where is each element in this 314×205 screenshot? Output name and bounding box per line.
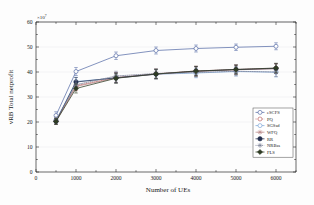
y-tick-label: 40 [27, 69, 33, 75]
chart-canvas: 01000200030004000500060000102030405060 e… [0, 0, 314, 205]
legend-marker [258, 143, 263, 148]
x-tick-label: 0 [35, 175, 38, 181]
series-line [56, 72, 276, 121]
legend-label: NRBss [267, 143, 280, 148]
legend-marker [258, 130, 263, 135]
x-axis-title: Number of UEs [146, 186, 191, 194]
series-line [56, 71, 276, 120]
legend-item-escfs[interactable]: eSCFS [256, 110, 281, 115]
x-tick-label: 5000 [230, 175, 241, 181]
data-point [274, 44, 278, 48]
y-tick-label: 20 [27, 119, 33, 125]
y-axis-exponent-power: 7 [45, 14, 47, 18]
legend-label: WFQ [267, 130, 278, 135]
data-point [114, 54, 118, 58]
series-pq [54, 64, 278, 125]
series-nrbss [54, 67, 279, 123]
data-series-layer [53, 43, 278, 125]
x-tick-label: 4000 [190, 175, 201, 181]
legend-marker [258, 137, 262, 141]
y-tick-label: 60 [27, 19, 33, 25]
legend-label: PQ [267, 117, 274, 122]
series-sgssd [54, 67, 278, 124]
data-point [154, 49, 158, 53]
y-axis-exponent: ×107 [37, 14, 47, 20]
tick-labels-layer: 01000200030004000500060000102030405060 [27, 19, 282, 181]
legend-item-sgssd[interactable]: SGSsd [256, 123, 281, 128]
y-tick-label: 0 [30, 169, 33, 175]
series-line [56, 69, 276, 122]
figure-container: 01000200030004000500060000102030405060 e… [0, 0, 314, 205]
chart-legend[interactable]: eSCFSPQSGSsdWFQRRNRBssFLS [253, 108, 293, 157]
y-tick-label: 10 [27, 144, 33, 150]
series-line [56, 69, 276, 121]
y-tick-label: 30 [27, 94, 33, 100]
legend-label: eSCFS [267, 110, 280, 115]
x-tick-label: 2000 [110, 175, 121, 181]
series-fls [53, 63, 278, 124]
series-line [56, 68, 276, 121]
data-point [234, 45, 238, 49]
y-axis-title: vRB Total netprofit [7, 70, 15, 125]
data-point [194, 47, 198, 51]
x-tick-label: 1000 [70, 175, 81, 181]
legend-label: SGSsd [267, 123, 280, 128]
legend-marker [258, 117, 262, 121]
series-line [56, 68, 276, 122]
x-tick-label: 6000 [270, 175, 281, 181]
legend-marker [258, 110, 262, 114]
legend-marker [258, 124, 262, 128]
legend-label: FLS [267, 150, 275, 155]
x-tick-label: 3000 [150, 175, 161, 181]
legend-label: RR [267, 137, 274, 142]
data-point [74, 70, 78, 74]
y-tick-label: 50 [27, 44, 33, 50]
